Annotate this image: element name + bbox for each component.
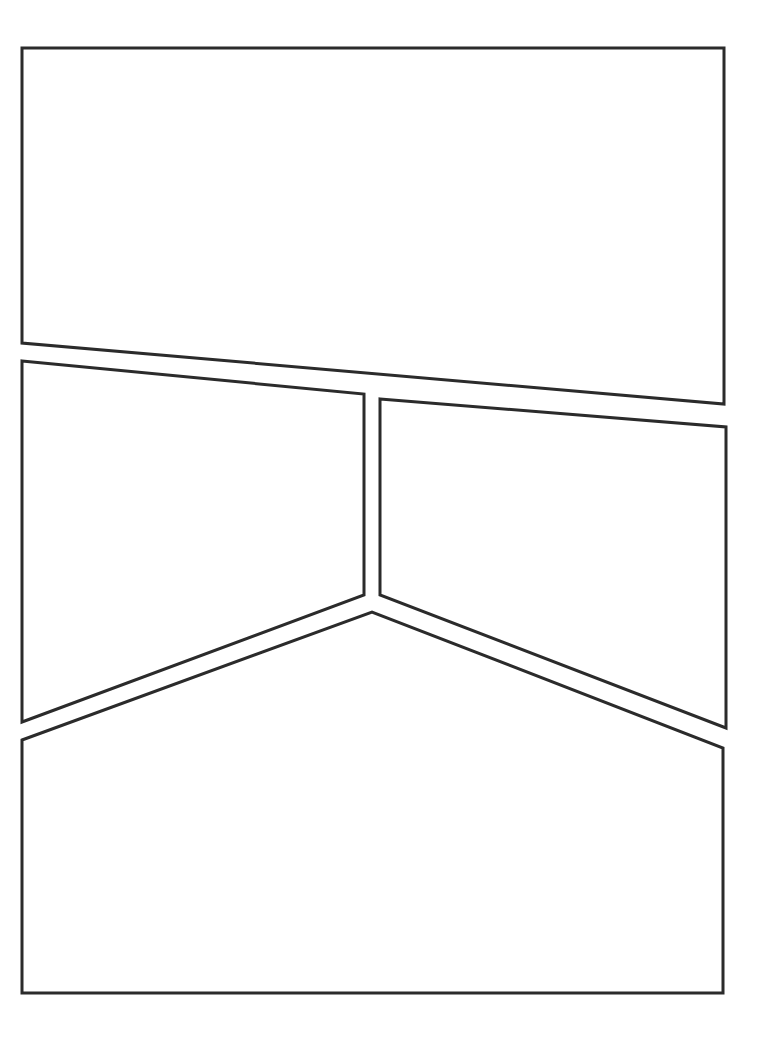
comic-page [0, 0, 769, 1038]
panel-1-top[interactable] [22, 48, 724, 404]
comic-panel-layout [0, 0, 769, 1038]
